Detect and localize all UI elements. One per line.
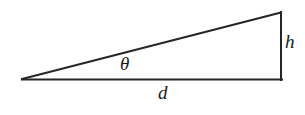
height-label-h: h: [285, 32, 295, 51]
hypotenuse-line: [22, 13, 281, 80]
triangle-drawing: [0, 0, 305, 115]
base-label-d: d: [158, 83, 168, 102]
angle-label-theta: θ: [120, 54, 129, 73]
triangle-diagram: θ d h: [0, 0, 305, 115]
